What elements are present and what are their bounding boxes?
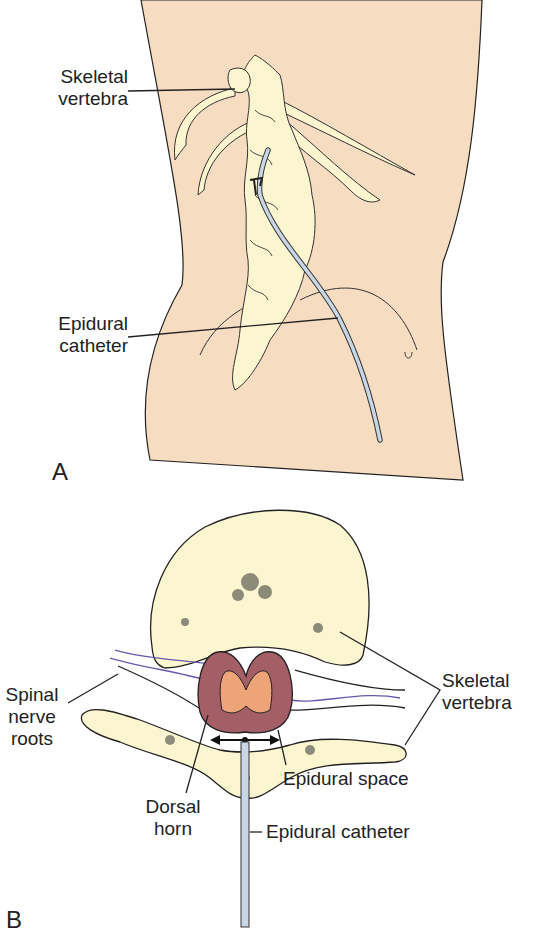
arrowhead-left [210,735,220,745]
label-epidural-space: Epidural space [283,768,409,790]
label-spinal-nerve-roots: Spinal nerve roots [0,684,64,750]
arrowhead-right [270,735,280,745]
label-skeletal-vertebra-a: Skeletal vertebra [30,66,128,110]
label-dorsal-horn: Dorsal horn [142,796,204,840]
panel-letter-b: B [6,906,22,934]
panel-b-illustration [68,510,440,927]
leader-spinal-nerve-roots [68,674,118,703]
epidural-diagram [0,0,535,937]
label-epidural-catheter-b: Epidural catheter [266,821,410,843]
catheter-tube-b [241,742,249,927]
panel-letter-a: A [52,458,68,486]
label-skeletal-vertebra-b: Skeletal vertebra [442,670,512,714]
panel-a-illustration [128,0,482,480]
label-epidural-catheter-a: Epidural catheter [30,313,128,357]
